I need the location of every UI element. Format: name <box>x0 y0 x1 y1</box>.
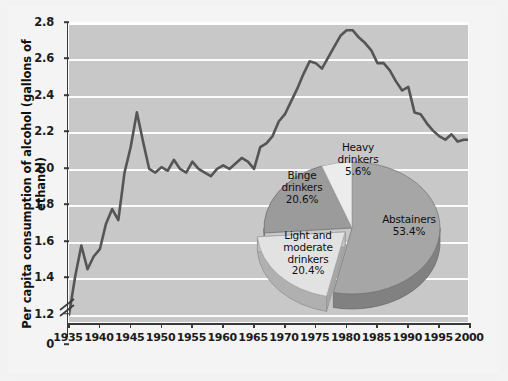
x-tick-label: 1950 <box>146 331 175 344</box>
x-tick-mark <box>438 323 440 328</box>
x-tick-mark <box>315 323 317 328</box>
y-tick-mark <box>64 313 69 315</box>
y-tick-mark <box>64 204 69 206</box>
y-tick-mark <box>64 21 69 23</box>
x-tick-label: 1965 <box>238 331 267 344</box>
y-axis-line <box>67 22 69 337</box>
x-tick-label: 1935 <box>53 331 82 344</box>
x-tick-label: 1980 <box>331 331 360 344</box>
y-tick-mark <box>64 131 69 133</box>
x-tick-mark <box>161 323 163 328</box>
x-tick-label: 1985 <box>362 331 391 344</box>
x-tick-mark <box>346 323 348 328</box>
y-tick-label: 2.8 <box>34 15 54 29</box>
x-axis-line <box>67 323 470 325</box>
x-tick-label: 1995 <box>423 331 452 344</box>
x-tick-mark <box>469 323 471 328</box>
x-tick-label: 1970 <box>269 331 298 344</box>
y-tick-mark <box>64 58 69 60</box>
pie-chart-inset: Abstainers 53.4% Light and moderate drin… <box>245 152 460 317</box>
x-tick-label: 1975 <box>300 331 329 344</box>
x-tick-label: 1945 <box>115 331 144 344</box>
y-axis-break-icon <box>59 296 77 318</box>
x-tick-label: 1990 <box>393 331 422 344</box>
y-tick-mark <box>64 94 69 96</box>
x-tick-mark <box>253 323 255 328</box>
y-tick-mark <box>64 240 69 242</box>
pie-svg <box>245 152 460 317</box>
x-tick-mark <box>222 323 224 328</box>
x-tick-label: 1960 <box>208 331 237 344</box>
x-tick-mark <box>130 323 132 328</box>
y-tick-mark <box>64 277 69 279</box>
x-tick-label: 1940 <box>84 331 113 344</box>
x-tick-mark <box>407 323 409 328</box>
x-tick-mark <box>99 323 101 328</box>
figure-container: 2.82.62.42.22.01.81.61.41.20 Per capita … <box>0 0 508 381</box>
x-tick-label: 1955 <box>177 331 206 344</box>
y-axis-title: Per capita consumption of alcohol (gallo… <box>20 39 48 329</box>
x-tick-mark <box>68 323 70 328</box>
x-tick-mark <box>191 323 193 328</box>
x-tick-mark <box>376 323 378 328</box>
y-tick-mark <box>64 167 69 169</box>
x-tick-mark <box>284 323 286 328</box>
x-tick-label: 2000 <box>454 331 483 344</box>
